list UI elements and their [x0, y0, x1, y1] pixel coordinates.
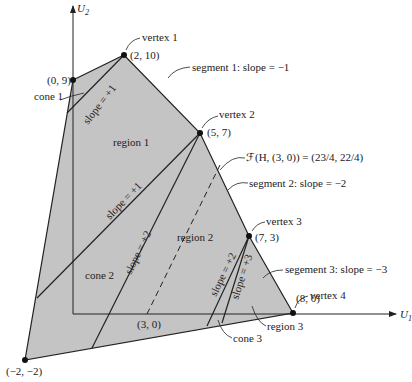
- vertex-2-dot: [197, 130, 203, 136]
- label-point-5-7: (5, 7): [207, 126, 231, 139]
- cone-2-label: cone 2: [85, 269, 114, 281]
- vertex-3-label: vertex 3: [266, 215, 302, 227]
- vertex-1-label: vertex 1: [142, 31, 178, 43]
- region-1-label: region 1: [113, 136, 149, 148]
- label-point-0-9: (0, 9): [47, 74, 71, 87]
- point-m2-m2: [22, 357, 28, 363]
- label-point-3-0: (3, 0): [137, 318, 161, 331]
- vertex-3-dot: [246, 233, 252, 239]
- region-2-label: region 2: [177, 231, 213, 243]
- vertex-2-label: vertex 2: [219, 108, 255, 120]
- payoff-region-diagram: U2 U1 (0, 9) (2, 10) (5, 7) (7, 3) (8, 0…: [0, 0, 412, 382]
- u2-axis-label: U2: [77, 2, 89, 17]
- label-point-7-3: (7, 3): [255, 231, 279, 244]
- cone-1-label: cone 1: [34, 90, 63, 102]
- label-point-m2-m2: (−2, −2): [6, 365, 43, 378]
- region-3-label: region 3: [267, 320, 304, 332]
- fh-label: ℱ(H, (3, 0)) = (23/4, 22/4): [246, 151, 364, 164]
- segment-3-label: segement 3: slope = −3: [285, 263, 388, 275]
- segment-1-label: segment 1: slope = −1: [192, 61, 289, 73]
- vertex-1-dot: [121, 52, 127, 58]
- cone-3-label: cone 3: [233, 332, 263, 344]
- u1-axis-label: U1: [400, 308, 412, 323]
- point-0-9: [70, 77, 76, 83]
- segment-2-label: segment 2: slope = −2: [249, 177, 346, 189]
- label-point-2-10: (2, 10): [130, 49, 160, 62]
- vertex-4-dot: [290, 310, 296, 316]
- vertex-4-label: vertex 4: [310, 289, 346, 301]
